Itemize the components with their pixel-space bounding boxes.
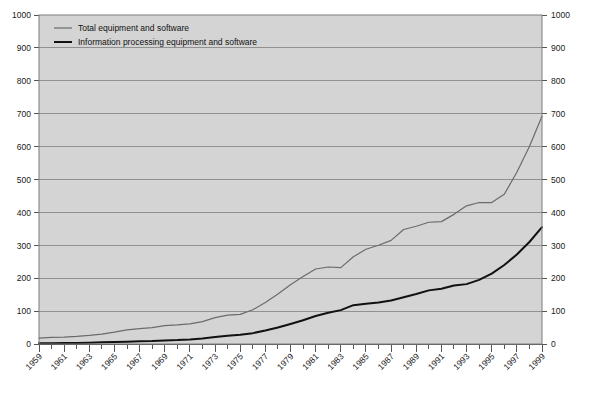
y-tick-label-right-800: 800 xyxy=(551,76,565,86)
y-tick-label-left-600: 600 xyxy=(17,142,31,152)
legend-label-1: Information processing equipment and sof… xyxy=(78,37,257,47)
y-tick-label-right-500: 500 xyxy=(551,175,565,185)
y-tick-label-left-800: 800 xyxy=(17,76,31,86)
y-tick-label-right-0: 0 xyxy=(551,339,556,349)
y-tick-label-right-400: 400 xyxy=(551,208,565,218)
y-tick-label-right-200: 200 xyxy=(551,273,565,283)
y-tick-label-right-700: 700 xyxy=(551,109,565,119)
y-tick-label-left-100: 100 xyxy=(17,306,31,316)
y-tick-label-right-600: 600 xyxy=(551,142,565,152)
y-tick-label-right-1000: 1000 xyxy=(551,10,570,20)
y-tick-label-right-100: 100 xyxy=(551,306,565,316)
chart-container: 01002003004005006007008009001000 0100200… xyxy=(0,0,606,394)
y-tick-label-left-500: 500 xyxy=(17,175,31,185)
y-tick-label-right-900: 900 xyxy=(551,43,565,53)
legend-label-0: Total equipment and software xyxy=(78,23,189,33)
line-chart: 01002003004005006007008009001000 0100200… xyxy=(0,0,606,394)
y-tick-label-left-400: 400 xyxy=(17,208,31,218)
y-tick-label-left-0: 0 xyxy=(26,339,31,349)
y-tick-label-right-300: 300 xyxy=(551,241,565,251)
y-tick-label-left-1000: 1000 xyxy=(12,10,31,20)
y-tick-label-left-700: 700 xyxy=(17,109,31,119)
y-tick-label-left-300: 300 xyxy=(17,241,31,251)
y-tick-label-left-900: 900 xyxy=(17,43,31,53)
y-tick-label-left-200: 200 xyxy=(17,273,31,283)
